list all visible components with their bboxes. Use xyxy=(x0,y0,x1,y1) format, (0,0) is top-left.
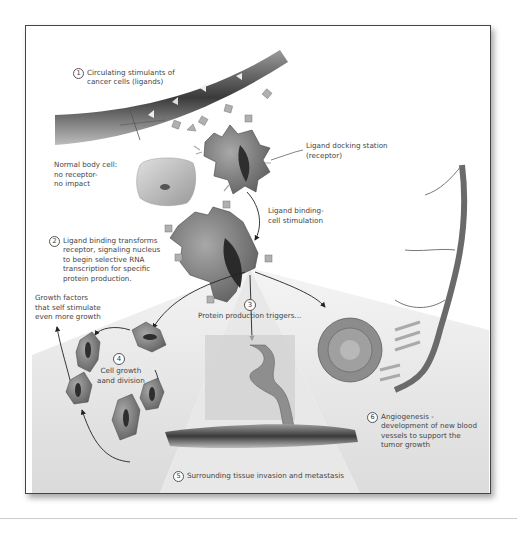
step-1-text: Circulating stimulants of cancer cells (… xyxy=(87,68,175,87)
receptor-label: Ligand docking station (receptor) xyxy=(306,141,388,160)
step-2-number: 2 xyxy=(49,236,60,247)
step-4-text: Cell growth aand division xyxy=(97,366,145,385)
step-1-number: 1 xyxy=(73,68,84,79)
step-1-label: 1Circulating stimulants of cancer cells … xyxy=(73,58,175,87)
step-5-number: 5 xyxy=(173,471,184,482)
step-6-text: Angiogenesis - development of new blood … xyxy=(381,412,477,450)
growth-factors-label: Growth factors that self stimulate even … xyxy=(35,293,101,322)
step-3-number: 3 xyxy=(244,299,256,311)
step-6-label: 6Angiogenesis - development of new blood… xyxy=(367,402,477,450)
normal-body-cell xyxy=(137,158,196,206)
step-5-text: Surrounding tissue invasion and metastas… xyxy=(187,471,344,480)
step-5-label: 5Surrounding tissue invasion and metasta… xyxy=(173,461,344,482)
normal-cell-label: Normal body cell: no receptor- no impact xyxy=(54,160,117,189)
step-4-number: 4 xyxy=(113,353,125,365)
step-6-number: 6 xyxy=(367,412,378,423)
binding-label: Ligand binding- cell stimulation xyxy=(268,206,324,225)
step-2-text: Ligand binding transforms receptor, sign… xyxy=(63,236,160,284)
step-3-text: Protein production triggers... xyxy=(198,311,301,321)
cancer-cell-receptor xyxy=(194,125,303,194)
step-2-label: 2Ligand binding transforms receptor, sig… xyxy=(49,226,160,284)
